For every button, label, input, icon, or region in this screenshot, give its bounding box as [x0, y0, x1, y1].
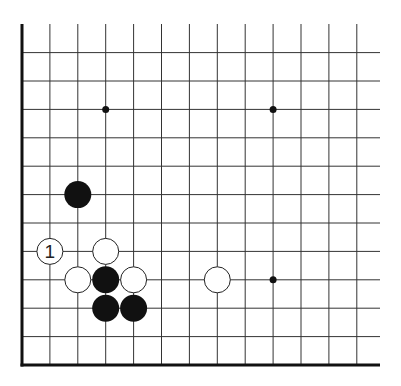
black-stone-icon: [92, 266, 119, 293]
black-stone-icon: [64, 181, 91, 208]
white-stone: 1: [37, 238, 63, 264]
star-point-icon: [102, 106, 109, 113]
black-stone: [120, 295, 147, 322]
white-stone: [204, 267, 230, 293]
white-stone-icon: [65, 267, 91, 293]
white-stone-icon: [93, 238, 119, 264]
white-stone-icon: [204, 267, 230, 293]
star-point-icon: [270, 276, 277, 283]
move-number-label: 1: [45, 241, 56, 262]
black-stone: [64, 181, 91, 208]
white-stone: [93, 238, 119, 264]
white-stone-icon: [121, 267, 147, 293]
black-stone: [92, 295, 119, 322]
white-stone: [65, 267, 91, 293]
black-stone-icon: [120, 295, 147, 322]
black-stone-icon: [92, 295, 119, 322]
white-stone: [121, 267, 147, 293]
star-point-icon: [270, 106, 277, 113]
go-board: 1: [0, 0, 401, 386]
black-stone: [92, 266, 119, 293]
